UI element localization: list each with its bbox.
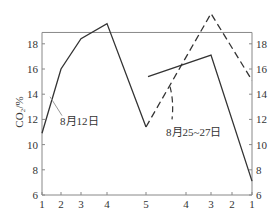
x-tick-label: 4	[104, 198, 110, 210]
y-tick-label-right: 12	[256, 113, 267, 125]
annotation-leader	[170, 87, 173, 120]
y-tick-label-left: 16	[27, 63, 39, 75]
y-tick-label-left: 6	[33, 189, 39, 201]
series-line	[146, 14, 252, 127]
y-tick-label-right: 6	[256, 189, 262, 201]
y-tick-label-right: 16	[256, 63, 268, 75]
x-tick-label: 2	[58, 198, 64, 210]
x-tick-label: 1	[249, 198, 255, 210]
y-tick-label-right: 8	[256, 164, 262, 176]
y-tick-label-left: 14	[27, 88, 39, 100]
x-tick-label: 3	[208, 198, 214, 210]
annotation-leader	[50, 97, 62, 116]
annotation-aug12: 8月12日	[60, 115, 99, 127]
y-tick-label-right: 10	[256, 139, 268, 151]
x-tick-label: 2	[229, 198, 235, 210]
y-tick-label-left: 12	[27, 113, 38, 125]
annotations: 8月12日8月25~27日	[50, 87, 221, 138]
x-tick-label: 3	[78, 198, 84, 210]
series-line	[148, 55, 252, 181]
y-tick-label-right: 14	[256, 88, 268, 100]
y-tick-label-left: 10	[27, 139, 39, 151]
data-lines	[42, 14, 252, 182]
x-tick-label: 5	[143, 198, 149, 210]
y-tick-label-left: 8	[33, 164, 39, 176]
y-axis-label: CO₂/%	[13, 96, 25, 127]
x-tick-label: 1	[39, 198, 45, 210]
y-tick-label-left: 18	[27, 38, 39, 50]
co2-chart: 668810101212141416161818123454321 8月12日8…	[0, 0, 279, 221]
y-tick-label-right: 18	[256, 38, 268, 50]
x-tick-label: 4	[183, 198, 189, 210]
annotation-aug25-27: 8月25~27日	[166, 126, 221, 138]
